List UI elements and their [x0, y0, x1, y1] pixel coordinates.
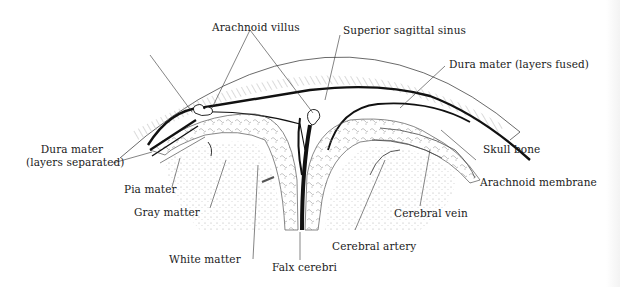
label-dura-mater-fused: Dura mater (layers fused)	[449, 58, 589, 71]
label-arachnoid-membrane: Arachnoid membrane	[480, 176, 597, 189]
label-dura-mater-separated: Dura mater (layers separated)	[26, 143, 118, 169]
label-cerebral-vein: Cerebral vein	[394, 207, 468, 220]
arachnoid-villus-center	[308, 109, 320, 125]
meninges-diagram: Arachnoid villus Superior sagittal sinus…	[0, 0, 620, 287]
label-skull-bone: Skull bone	[483, 143, 540, 156]
label-gray-matter: Gray matter	[134, 206, 200, 219]
label-arachnoid-villus: Arachnoid villus	[212, 21, 300, 34]
label-cerebral-artery: Cerebral artery	[332, 240, 416, 253]
label-dura-mater-separated-line1: Dura mater	[26, 143, 118, 156]
label-white-matter: White matter	[169, 253, 241, 266]
label-pia-mater: Pia mater	[124, 183, 177, 196]
label-superior-sagittal-sinus: Superior sagittal sinus	[343, 24, 466, 37]
page-edge-shadow	[606, 0, 620, 287]
label-dura-mater-separated-line2: (layers separated)	[26, 156, 118, 169]
label-falx-cerebri: Falx cerebri	[272, 261, 337, 274]
